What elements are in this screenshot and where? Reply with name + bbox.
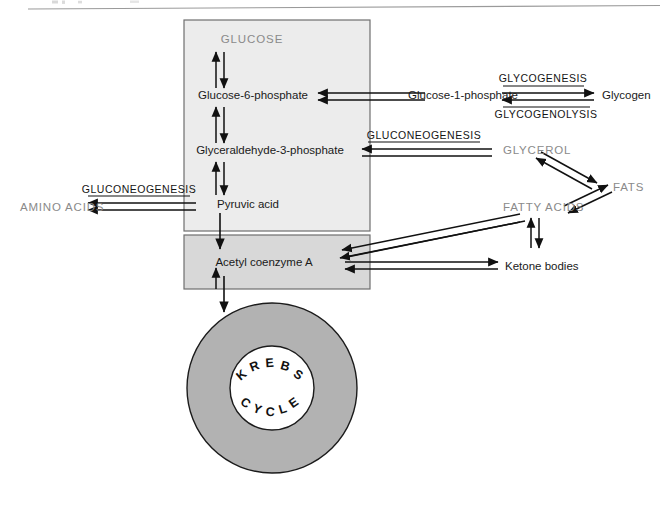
process-label-glycogenolysis: GLYCOGENOLYSIS (495, 108, 598, 120)
node-fatty-acids: FATTY ACIDS (503, 201, 584, 213)
diagram-canvas: GLUCOSE Glucose-6-phosphate Glyceraldehy… (0, 0, 664, 510)
node-acetyl-coenzyme-a: Acetyl coenzyme A (215, 256, 312, 268)
krebs-letter-2: E (265, 356, 274, 371)
node-glyceraldehyde-3-phosphate: Glyceraldehyde-3-phosphate (196, 144, 344, 156)
node-amino-acids: AMINO ACIDS (20, 201, 104, 213)
cycle-letter-2: C (265, 405, 275, 419)
node-glycogen: Glycogen (602, 89, 651, 101)
node-glucose-1-phosphate: Glucose-1-phosphate (408, 89, 518, 101)
node-fats: FATS (613, 181, 644, 193)
process-label-gluconeogenesis-lower: GLUCONEOGENESIS (82, 183, 196, 195)
process-label-gluconeogenesis-upper: GLUCONEOGENESIS (367, 129, 481, 141)
node-glucose: GLUCOSE (221, 33, 284, 45)
node-glycerol: GLYCEROL (503, 144, 571, 156)
node-glucose-6-phosphate: Glucose-6-phosphate (198, 89, 308, 101)
page-top-rule (28, 1, 660, 10)
node-ketone-bodies: Ketone bodies (505, 260, 579, 272)
process-label-glycogenesis: GLYCOGENESIS (499, 72, 588, 84)
arrow-glycerol-g3p (362, 142, 492, 156)
arrow-fatty-acids-ketone (531, 218, 539, 248)
arrow-glycerol-fats (536, 152, 597, 189)
node-pyruvic-acid: Pyruvic acid (217, 198, 279, 210)
